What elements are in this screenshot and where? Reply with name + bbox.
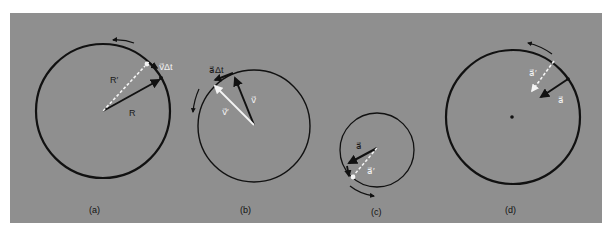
radius-prime-tip-dot	[145, 62, 150, 67]
label-v-prime: v⃗′	[222, 107, 229, 117]
label-a-prime-d: a⃗′	[529, 68, 537, 78]
label-a-c: a⃗	[356, 141, 362, 151]
label-R: R	[129, 108, 136, 118]
radius-tip-dot	[159, 76, 163, 80]
label-a-d: a⃗	[558, 95, 564, 105]
accel-prime-tip-dot	[351, 175, 356, 180]
accel-tip-dot-d	[566, 77, 570, 81]
caption-b: (b)	[240, 205, 251, 215]
label-a-prime-c: a⃗′	[367, 166, 375, 176]
circular-motion-figure: R′ R v⃗Δt (a) a⃗Δt v⃗ v⃗′ (b) a⃗ a⃗′ (c)	[0, 0, 613, 238]
caption-c: (c)	[371, 207, 382, 217]
label-a-dt: a⃗Δt	[209, 65, 224, 75]
caption-d: (d)	[505, 205, 516, 215]
label-v-dt: v⃗Δt	[159, 62, 173, 72]
caption-a: (a)	[89, 205, 100, 215]
label-R-prime: R′	[110, 75, 118, 85]
center-dot	[510, 115, 514, 119]
